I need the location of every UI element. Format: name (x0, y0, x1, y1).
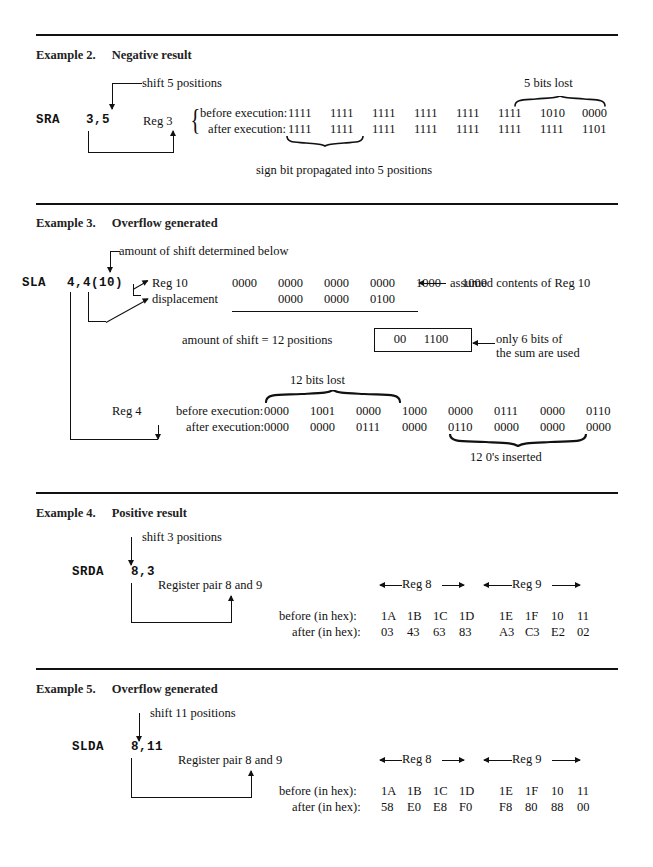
bit-group: 1111 (330, 122, 372, 137)
example-4-before-label: before (in hex): (279, 609, 357, 624)
example-3-after-label: after execution: (186, 420, 264, 435)
example-3-heading: Example 3.Overflow generated (36, 216, 218, 231)
bit-group: 0000 (582, 106, 624, 121)
example-5-title: Overflow generated (112, 682, 218, 696)
example-3-reg10-note-arrow (419, 283, 446, 284)
example-3-shift-leader-horizontal (110, 251, 120, 252)
example-3-shift-note: amount of shift determined below (119, 244, 288, 259)
bit-group: 1111 (372, 122, 414, 137)
bit-group: 0000 (264, 404, 310, 419)
bit-group: 0000 (324, 276, 370, 291)
hex-byte: 1A (381, 609, 407, 624)
example-3-after-bits: 00000000011100000110000000000000 (264, 420, 632, 435)
example-3-inserted-note: 12 0's inserted (470, 450, 542, 465)
section-rule-3 (36, 492, 618, 494)
bit-group: 0000 (586, 420, 632, 435)
example-5-connector-bottom (131, 797, 251, 798)
bit-group: 0000 (310, 420, 356, 435)
example-2-after-bits: 11111111111111111111111111111101 (288, 122, 624, 137)
bit-group: 0000 (540, 404, 586, 419)
hex-byte: E0 (407, 800, 433, 815)
hex-byte: 80 (525, 800, 551, 815)
bit-group: 0111 (494, 404, 540, 419)
hex-byte: 83 (459, 625, 485, 640)
example-3-before-bits: 00001001000010000000011100000110 (264, 404, 632, 419)
hex-byte: 1D (459, 784, 485, 799)
hex-byte: 00 (577, 800, 603, 815)
example-5-reg-high-label: Reg 8 (402, 752, 432, 767)
bit-group: 0000 (370, 276, 416, 291)
section-rule-top (36, 34, 618, 36)
example-3-reg10-leader-foot (133, 295, 141, 296)
bit-group: 1111 (330, 106, 372, 121)
example-4-shift-note: shift 3 positions (142, 530, 222, 545)
bit-group: 0100 (370, 292, 416, 307)
bit-group: 0110 (586, 404, 632, 419)
hex-byte: 1D (459, 609, 485, 624)
example-4-shift-arrow (131, 537, 132, 565)
example-3-reg4-connector-bottom (70, 439, 158, 440)
example-2-before-label: before execution: (200, 106, 287, 121)
example-4-mnemonic: SRDA (72, 565, 104, 579)
example-4-register-label: Register pair 8 and 9 (158, 578, 262, 593)
example-3-inserted-brace (448, 434, 588, 447)
example-2-connector-bottom (88, 152, 173, 153)
bit-group: 1111 (456, 122, 498, 137)
bit-group: 0000 (264, 420, 310, 435)
example-3-reg10-label: Reg 10 (152, 276, 188, 291)
example-2-connector-left (88, 131, 89, 153)
example-3-boxed-note-line1: only 6 bits of (496, 332, 562, 347)
example-2-footer-note: sign bit propagated into 5 positions (256, 163, 432, 178)
example-4-title: Positive result (112, 506, 187, 520)
boxed-sum-high: 00 (387, 332, 413, 347)
example-3-reg10-note: assumed contents of Reg 10 (450, 276, 590, 291)
bit-group: 1111 (414, 122, 456, 137)
example-2-mnemonic: SRA (36, 113, 60, 127)
example-2-heading: Example 2.Negative result (36, 48, 192, 63)
example-3-displacement-label: displacement (152, 292, 218, 307)
example-5-operands: 8,11 (131, 740, 163, 754)
hex-byte: 1E (499, 784, 525, 799)
example-4-reg-low-label: Reg 9 (512, 577, 542, 592)
example-5-after-label: after (in hex): (292, 800, 361, 815)
hex-byte: E8 (433, 800, 459, 815)
hex-byte: 1F (525, 784, 551, 799)
hex-byte: 10 (551, 784, 577, 799)
example-3-operand-stem-foot (88, 321, 106, 322)
example-3-mnemonic: SLA (22, 276, 46, 290)
hex-byte: 58 (381, 800, 407, 815)
bit-group: 0000 (324, 292, 370, 307)
example-5-shift-arrow (139, 713, 140, 741)
example-2-before-bits: 11111111111111111111111110100000 (288, 106, 624, 121)
example-3-reg10-leader (133, 281, 148, 290)
example-2-after-label: after execution: (208, 122, 286, 137)
example-3-title: Overflow generated (112, 216, 218, 230)
example-3-boxed-sum: 001100 (374, 328, 472, 352)
example-2-shift-note: shift 5 positions (142, 76, 222, 91)
example-2-sign-bit-brace (286, 136, 364, 147)
example-2-number: Example 2. (36, 48, 96, 62)
section-rule-2 (36, 203, 618, 205)
hex-byte: 43 (407, 625, 433, 640)
example-3-operands: 4,4(10) (67, 276, 123, 290)
hex-byte: 88 (551, 800, 577, 815)
example-3-boxed-note-line2: the sum are used (496, 346, 580, 361)
hex-byte: F0 (459, 800, 485, 815)
section-rule-4 (36, 668, 618, 670)
example-3-displacement-bits: 000000000100 (278, 292, 416, 307)
example-3-bits-lost-note: 12 bits lost (290, 373, 345, 388)
example-5-number: Example 5. (36, 682, 96, 696)
bit-group: 0000 (232, 276, 278, 291)
bit-group: 1111 (456, 106, 498, 121)
bit-group: 0000 (278, 292, 324, 307)
bit-group: 1111 (288, 106, 330, 121)
hex-byte: 10 (551, 609, 577, 624)
example-5-connector-arrow (251, 771, 252, 798)
bit-group: 1111 (288, 122, 330, 137)
bit-group: 0110 (448, 420, 494, 435)
example-5-shift-note: shift 11 positions (150, 706, 236, 721)
example-2-connector-right-arrow (173, 131, 174, 153)
hex-byte: 1C (433, 609, 459, 624)
example-5-reg-low-label: Reg 9 (512, 752, 542, 767)
example-4-operands: 8,3 (131, 565, 155, 579)
